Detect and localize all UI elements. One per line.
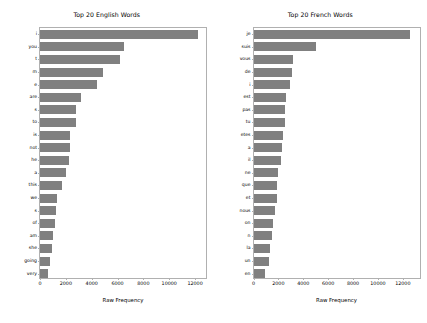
y-axis-tick <box>252 97 254 98</box>
y-axis-tick <box>38 173 40 174</box>
bar-row: m <box>40 68 208 77</box>
y-axis-tick <box>252 59 254 60</box>
x-axis-tick-label: 2000 <box>272 281 284 286</box>
y-axis-tick <box>252 173 254 174</box>
chart-title-french: Top 20 French Words <box>214 11 427 18</box>
y-axis-tick-label: very <box>27 271 37 276</box>
bar-row: she <box>40 244 208 253</box>
bar-row: est <box>254 93 422 102</box>
bar-row: que <box>254 181 422 190</box>
bar-series-french: jesuisvousdeiestpastuetesailnequeetnouso… <box>254 28 420 278</box>
bar <box>40 93 81 102</box>
y-axis-tick-label: n <box>248 234 251 239</box>
y-axis-tick <box>38 85 40 86</box>
bar-row: tu <box>254 118 422 127</box>
y-axis-tick-label: a <box>248 145 251 150</box>
y-axis-tick <box>38 47 40 48</box>
x-axis-tick <box>403 278 404 280</box>
bar-row: very <box>40 269 208 278</box>
y-axis-tick-label: on <box>245 221 251 226</box>
bar-row: a <box>40 168 208 177</box>
bar-row: s <box>40 206 208 215</box>
bar-row: vous <box>254 55 422 64</box>
x-axis-label-english: Raw Frequency <box>39 297 207 303</box>
x-axis-tick-label: 2000 <box>60 281 72 286</box>
y-axis-tick <box>38 122 40 123</box>
bar-row: et <box>254 194 422 203</box>
x-axis-tick <box>143 278 144 280</box>
y-axis-tick-label: il <box>248 158 251 163</box>
bar <box>254 168 278 177</box>
y-axis-tick <box>38 211 40 212</box>
y-axis-tick <box>252 122 254 123</box>
x-axis-tick <box>169 278 170 280</box>
y-axis-tick <box>38 148 40 149</box>
bar-row: suis <box>254 42 422 51</box>
y-axis-tick-label: etes <box>241 133 251 138</box>
y-axis-tick <box>38 97 40 98</box>
x-axis-tick <box>40 278 41 280</box>
bar <box>40 143 70 152</box>
bar-row: la <box>254 244 422 253</box>
x-axis-tick-label: 10000 <box>370 281 385 286</box>
bar <box>254 80 291 89</box>
y-axis-tick-label: que <box>242 183 251 188</box>
y-axis-tick <box>252 135 254 136</box>
y-axis-tick-label: m <box>33 70 37 75</box>
y-axis-tick-label: are <box>30 95 37 100</box>
y-axis-tick-label: la <box>246 246 250 251</box>
x-axis-tick-label: 12000 <box>187 281 202 286</box>
y-axis-tick <box>252 248 254 249</box>
x-axis-tick <box>278 278 279 280</box>
bar <box>40 194 57 203</box>
x-axis-tick <box>92 278 93 280</box>
bar-row: je <box>254 30 422 39</box>
bar-row: de <box>254 68 422 77</box>
y-axis-tick <box>38 261 40 262</box>
bar <box>254 93 286 102</box>
bar-row: t <box>40 55 208 64</box>
bar <box>40 131 70 140</box>
bar-row: not <box>40 143 208 152</box>
bar <box>40 269 48 278</box>
bar <box>254 206 276 215</box>
x-axis-tick <box>303 278 304 280</box>
bar-row: ne <box>254 168 422 177</box>
bar-row: pas <box>254 105 422 114</box>
x-axis-tick <box>353 278 354 280</box>
chart-panel-french: Top 20 French Words jesuisvousdeiestpast… <box>214 0 427 323</box>
y-axis-tick-label: suis <box>242 45 251 50</box>
bar-row: this <box>40 181 208 190</box>
y-axis-tick-label: she <box>29 246 37 251</box>
y-axis-tick-label: you <box>29 45 37 50</box>
y-axis-tick <box>38 59 40 60</box>
y-axis-tick <box>252 198 254 199</box>
y-axis-tick <box>252 110 254 111</box>
y-axis-tick <box>252 34 254 35</box>
bar-row: of <box>40 219 208 228</box>
bar <box>254 194 277 203</box>
x-axis-tick <box>328 278 329 280</box>
y-axis-tick <box>252 261 254 262</box>
x-axis-tick <box>195 278 196 280</box>
bar <box>40 55 120 64</box>
bar <box>40 244 52 253</box>
y-axis-tick <box>38 34 40 35</box>
plot-area-english: iyoutmearestoisnotheathiswesofamshegoing… <box>39 27 207 279</box>
y-axis-tick-label: en <box>245 271 251 276</box>
bar <box>40 257 50 266</box>
bar <box>40 30 198 39</box>
y-axis-tick <box>252 160 254 161</box>
bar-row: en <box>254 269 422 278</box>
y-axis-tick <box>38 72 40 73</box>
y-axis-tick-label: tu <box>246 120 251 125</box>
x-axis-tick-label: 12000 <box>395 281 410 286</box>
bar-row: un <box>254 257 422 266</box>
y-axis-tick-label: je <box>246 32 250 37</box>
x-axis-tick <box>254 278 255 280</box>
bar <box>254 55 293 64</box>
bar <box>254 181 278 190</box>
y-axis-tick <box>252 185 254 186</box>
bar <box>40 219 55 228</box>
bar-row: on <box>254 219 422 228</box>
